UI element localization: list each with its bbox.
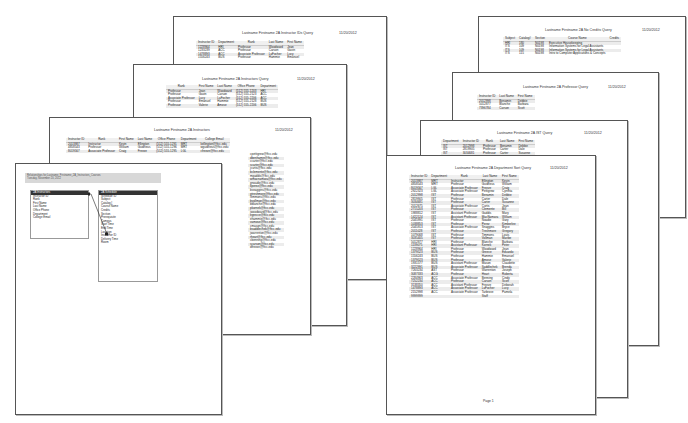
table-cell: Emanuel (285, 56, 304, 60)
relationships-page: Relationships for Lastname_Firstname_2A_… (15, 163, 222, 415)
report-title: Lastname Firstname 2A Instructors (154, 128, 210, 132)
table-cell: 7396784 (477, 107, 497, 111)
report-table: SubjectCatalog#SectionCourse NameCredits… (503, 37, 621, 56)
table-cell (500, 295, 519, 299)
report-title: Lastname Firstname 2A No Credits Query (545, 28, 612, 32)
report-date: 11/20/2012 (642, 28, 660, 32)
table-cell: LGL (179, 150, 199, 154)
table-row: 8019567Associate ProfessorCraigFreeze(51… (66, 150, 230, 154)
report-date: 11/20/2012 (297, 77, 315, 81)
report-table: Instructor IDRankFirst NameLast NameOffi… (66, 138, 230, 153)
report-title: Lastname Firstname 2A IST Query (497, 131, 552, 135)
email-column-table: cpettigrew@ftcc.edudbenhamin@ftcc.educca… (248, 153, 284, 250)
table-cell: Hammie (267, 56, 286, 60)
table-cell: ITS (503, 52, 517, 56)
table-cell: Carson (497, 107, 516, 111)
table-cell: cfreeze@ftcc.edu (198, 150, 230, 154)
table-cell: BUS (258, 104, 278, 108)
report-table: DepartmentInstructor IDRankLast NameFirs… (441, 140, 535, 155)
email-cell: dfreeze@ftcc.edu (248, 246, 284, 250)
table-cell: Freeze (136, 150, 155, 154)
table-cell: 115 (517, 52, 533, 56)
table-cell: N0198 (533, 52, 547, 56)
table-cell: Associate Professor (449, 291, 480, 295)
report-date: 11/20/2012 (339, 31, 357, 35)
table-row: 1556243BUSProfessorHammieEmanuel (196, 56, 304, 60)
table-cell: Staff (480, 295, 500, 299)
table-cell: Intro to Computer Applications & Concept… (547, 52, 608, 56)
report-date: 11/20/2012 (550, 166, 568, 170)
table-cell: 1556243 (196, 56, 216, 60)
table-cell: (512) 555-2206 (234, 104, 259, 108)
table-cell: Professor (236, 56, 267, 60)
table-cell: BUS (216, 56, 236, 60)
table-cell: Craig (117, 150, 136, 154)
relationship-line[interactable] (16, 164, 221, 414)
table-row: dfreeze@ftcc.edu (248, 246, 284, 250)
page-number: Page 1 (483, 399, 494, 403)
table-cell: 9999999 (409, 295, 429, 299)
report-date: 11/20/2012 (275, 128, 293, 132)
report-table: Instructor IDDepartmentRankLast NameFirs… (409, 175, 519, 298)
column-header: Credits (608, 37, 622, 41)
table-cell: 8019567 (66, 150, 86, 154)
table-cell (429, 295, 449, 299)
report-table: RankFirst NameLast NameOffice PhoneDepar… (166, 85, 278, 108)
table-cell: Associate Professor (86, 150, 117, 154)
table-cell: Professor (166, 104, 197, 108)
table-row: 7396784CarsonScott (477, 107, 535, 111)
table-cell: Scott (516, 107, 535, 111)
report-title: Lastname Firstname 2A Instructors Query (202, 77, 269, 81)
report-title: Lastname Firstname 2A Professor Query (523, 85, 588, 89)
table-row: ProfessorValerieAmose(512) 555-2206BUS (166, 104, 278, 108)
report-date: 11/20/2012 (584, 131, 602, 135)
report-title: Lastname Firstname 2A Department Sort Qu… (455, 166, 531, 170)
table-cell: Valerie (197, 104, 216, 108)
table-cell (608, 52, 622, 56)
table-cell: (512) 555-1295 (154, 150, 179, 154)
report-page-department-sort-query: Lastname Firstname 2A Department Sort Qu… (386, 155, 596, 415)
table-cell: Amose (215, 104, 234, 108)
report-table: Instructor IDDepartmentRankLast NameFirs… (196, 41, 304, 60)
report-table: Instructor IDLast NameFirst Name2012998B… (477, 95, 535, 110)
report-date: 11/20/2012 (608, 85, 626, 89)
table-row: 9999999Staff (409, 295, 519, 299)
table-row: ITS115N0198Intro to Computer Application… (503, 52, 621, 56)
table-cell (449, 295, 480, 299)
report-title: Lastname Firstname 2A Instructor IDs Que… (242, 31, 313, 35)
